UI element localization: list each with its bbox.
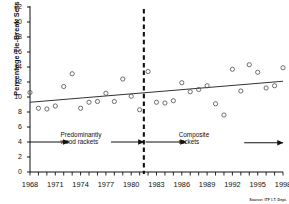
annotation-line-2: wood rackets <box>61 138 102 145</box>
data-point <box>188 90 192 94</box>
data-point <box>180 81 184 85</box>
y-tick-label: 12 <box>6 78 22 86</box>
data-point <box>87 100 91 104</box>
data-point <box>112 99 116 103</box>
y-tick-label: 14 <box>6 63 22 71</box>
data-point <box>79 106 83 110</box>
data-point <box>264 86 268 90</box>
data-point <box>121 77 125 81</box>
data-point <box>45 107 49 111</box>
data-point <box>247 63 251 67</box>
y-tick-label: 2 <box>6 153 22 161</box>
data-point <box>36 106 40 110</box>
y-tick-label: 20 <box>6 18 22 26</box>
y-tick-label: 16 <box>6 48 22 56</box>
data-point <box>129 94 133 98</box>
data-point <box>53 104 57 108</box>
y-tick-label: 4 <box>6 138 22 146</box>
y-tick-label: 6 <box>6 123 22 131</box>
annotation-line-2: rackets <box>179 138 210 145</box>
trend-line <box>30 81 283 102</box>
y-tick-label: 8 <box>6 108 22 116</box>
data-point <box>70 72 74 76</box>
data-point <box>230 67 234 71</box>
y-tick-label: 10 <box>6 93 22 101</box>
y-tick-label: 22 <box>6 3 22 11</box>
annotation-line-1: Composite <box>179 131 210 138</box>
data-point <box>163 101 167 105</box>
source-note: Source: ITF I.T. Dept. <box>249 198 287 202</box>
data-point <box>222 113 226 117</box>
data-point <box>62 84 66 88</box>
y-tick-label: 18 <box>6 33 22 41</box>
data-point <box>138 108 142 112</box>
data-point <box>154 100 158 104</box>
data-point <box>104 91 108 95</box>
data-point <box>171 99 175 103</box>
data-point <box>95 99 99 103</box>
annotation-wood-rackets: Predominantlywood rackets <box>61 131 102 146</box>
data-point <box>281 66 285 70</box>
annotation-line-1: Predominantly <box>61 131 102 138</box>
data-point <box>256 70 260 74</box>
annotation-composite-rackets: Compositerackets <box>179 131 210 146</box>
x-tick-label: 1998 <box>268 180 289 189</box>
y-tick-label: 0 <box>6 168 22 176</box>
tie-break-sets-chart: Percentage Tie-Break Sets Source: ITF I.… <box>0 0 289 204</box>
data-point <box>146 69 150 73</box>
data-point <box>213 102 217 106</box>
data-point <box>272 84 276 88</box>
data-point <box>239 89 243 93</box>
plot-area <box>0 0 289 204</box>
